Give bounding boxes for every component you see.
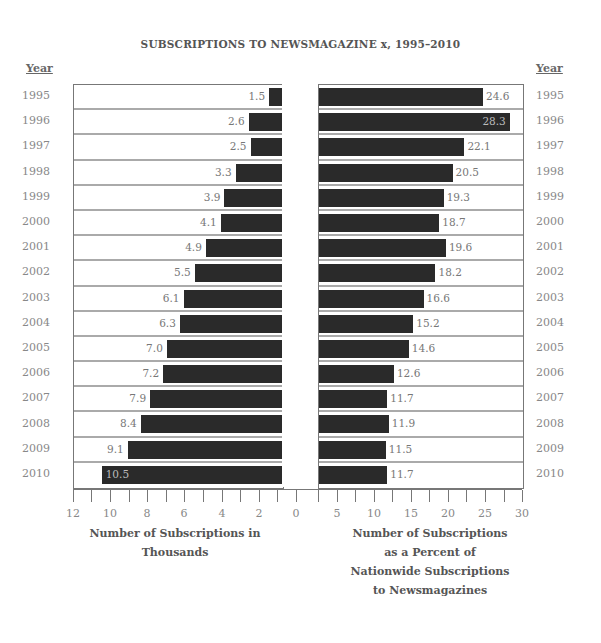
axis-tick: [240, 490, 241, 502]
right-bar-value: 22.1: [467, 140, 490, 152]
left-bar: [269, 88, 283, 106]
left-bar-row: 10.5: [74, 463, 283, 488]
right-bar: [319, 315, 413, 333]
left-bar: [184, 290, 283, 308]
left-bar-value: 6.1: [163, 292, 180, 304]
year-label-left: 2003: [22, 291, 66, 304]
year-label-left: 2010: [22, 467, 66, 480]
right-bar-row: 28.3: [319, 110, 523, 135]
axis-tick-label: 25: [470, 507, 500, 520]
left-bar-value: 2.6: [228, 115, 245, 127]
left-bar-value: 2.5: [230, 140, 247, 152]
left-bar: [180, 315, 283, 333]
right-bar-value: 14.6: [412, 342, 435, 354]
year-label-right: 1995: [536, 89, 580, 102]
axis-tick-label: 6: [169, 507, 199, 520]
left-bar: [236, 164, 283, 182]
left-bar-value: 6.3: [159, 317, 176, 329]
right-bar: [319, 466, 387, 484]
axis-tick: [259, 490, 260, 502]
year-label-right: 2008: [536, 417, 580, 430]
right-bar-row: 11.9: [319, 412, 523, 437]
right-bar-row: 16.6: [319, 287, 523, 312]
axis-tick: [166, 490, 167, 502]
axis-tick: [184, 490, 185, 502]
year-label-left: 2007: [22, 391, 66, 404]
right-xlabel: Number of Subscriptionsas a Percent ofNa…: [320, 524, 540, 600]
year-label-left: 2006: [22, 366, 66, 379]
year-label-left: 1996: [22, 114, 66, 127]
year-label-left: 2008: [22, 417, 66, 430]
right-bar: [319, 138, 464, 156]
year-label-left: 2002: [22, 265, 66, 278]
left-bar: [249, 113, 283, 131]
left-bar: [150, 390, 283, 408]
axis-tick: [91, 490, 92, 502]
left-bar-row: 7.9: [74, 387, 283, 412]
center-gap: [282, 84, 318, 487]
left-bar-row: 8.4: [74, 412, 283, 437]
right-bar-row: 11.5: [319, 438, 523, 463]
year-label-right: 2005: [536, 341, 580, 354]
right-bar: [319, 441, 386, 459]
left-bar: [224, 189, 283, 207]
left-bar-value: 3.3: [215, 166, 232, 178]
year-label-right: 2004: [536, 316, 580, 329]
right-bar: [319, 365, 394, 383]
year-label-left: 1995: [22, 89, 66, 102]
right-bar-row: 20.5: [319, 161, 523, 186]
year-label-right: 2002: [536, 265, 580, 278]
axis-tick: [129, 490, 130, 502]
axis-tick-label: 30: [507, 507, 537, 520]
left-panel-subscriptions-thousands: 1.52.62.53.33.94.14.95.56.16.37.07.27.98…: [73, 84, 284, 489]
axis-tick-label: 8: [132, 507, 162, 520]
axis-tick: [522, 490, 523, 502]
left-bar-value: 9.1: [107, 443, 124, 455]
left-bar-row: 6.3: [74, 312, 283, 337]
year-label-left: 2000: [22, 215, 66, 228]
right-bar-value: 19.3: [447, 191, 470, 203]
year-label-right: 1999: [536, 190, 580, 203]
left-bar: [221, 214, 283, 232]
left-bar-value: 3.9: [204, 191, 221, 203]
axis-tick-label: 0: [281, 507, 311, 520]
left-bar-value: 5.5: [174, 266, 191, 278]
axis-tick: [296, 490, 297, 502]
axis-tick: [504, 490, 505, 502]
axis-line: [73, 489, 522, 490]
axis-tick: [466, 490, 467, 502]
year-label-left: 2005: [22, 341, 66, 354]
axis-tick-label: 10: [359, 507, 389, 520]
chart-title: SUBSCRIPTIONS TO NEWSMAGAZINE x, 1995–20…: [0, 38, 601, 50]
axis-tick: [222, 490, 223, 502]
left-bar-value: 1.5: [248, 90, 265, 102]
axis-tick: [73, 490, 74, 502]
axis-tick: [337, 490, 338, 502]
year-label-right: 2000: [536, 215, 580, 228]
right-bar-value: 11.9: [392, 417, 415, 429]
right-bar-value: 18.2: [438, 266, 461, 278]
right-bar-row: 19.6: [319, 236, 523, 261]
right-bar-row: 15.2: [319, 312, 523, 337]
axis-tick-label: 12: [58, 507, 88, 520]
axis-tick: [448, 490, 449, 502]
right-bar: [319, 164, 453, 182]
left-bar: [206, 239, 283, 257]
axis-tick: [110, 490, 111, 502]
left-xlabel: Number of Subscriptions inThousands: [60, 524, 290, 562]
left-bar-row: 1.5: [74, 85, 283, 110]
left-bar-row: 7.0: [74, 337, 283, 362]
left-bar-row: 2.5: [74, 135, 283, 160]
left-bar-value: 7.2: [142, 367, 159, 379]
year-label-right: 2006: [536, 366, 580, 379]
right-bar-row: 18.2: [319, 261, 523, 286]
left-bar-value: 7.9: [129, 392, 146, 404]
year-label-left: 1997: [22, 139, 66, 152]
axis-tick: [374, 490, 375, 502]
right-bar-row: 24.6: [319, 85, 523, 110]
right-bar-value: 15.2: [416, 317, 439, 329]
axis-tick-label: 5: [322, 507, 352, 520]
year-header-right: Year: [536, 62, 563, 75]
right-bar: [319, 340, 409, 358]
right-bar-row: 22.1: [319, 135, 523, 160]
